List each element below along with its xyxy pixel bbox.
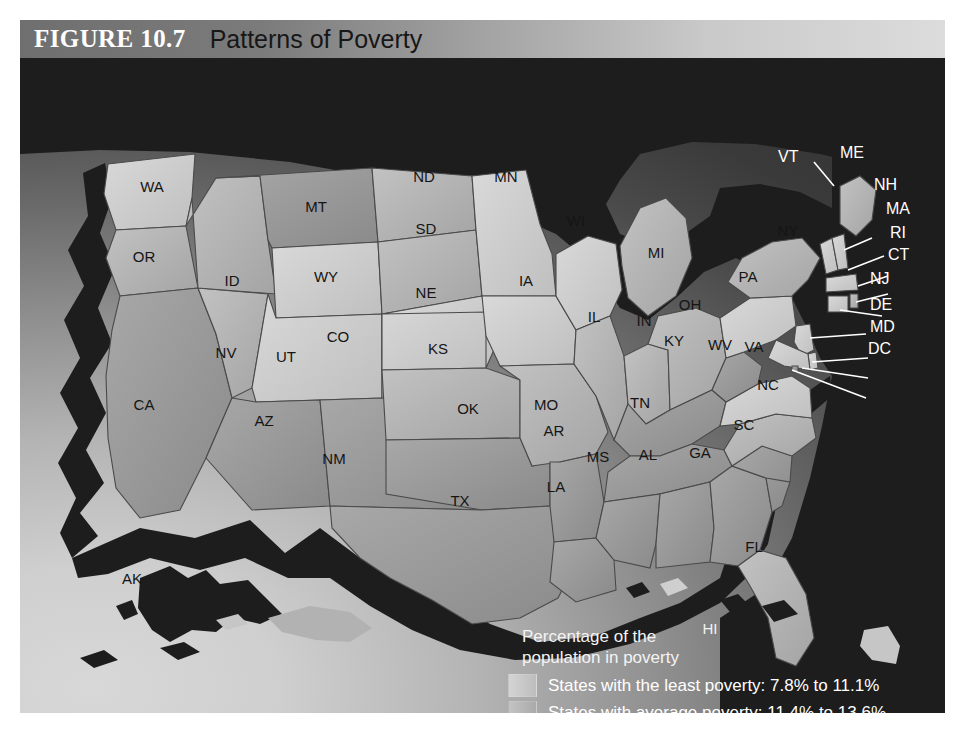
state-CT bbox=[828, 296, 848, 312]
svg-text:AK: AK bbox=[122, 570, 142, 587]
figure-title: Patterns of Poverty bbox=[210, 25, 423, 54]
us-choropleth-map: WA OR CA NV ID MT WY UT AZ CO NM ND SD N… bbox=[20, 58, 945, 713]
legend-label-least: States with the least poverty: 7.8% to 1… bbox=[548, 676, 879, 696]
legend-label-average: States with average poverty: 11.4% to 13… bbox=[548, 703, 886, 714]
inset-alaska bbox=[80, 566, 372, 668]
state-AL bbox=[656, 482, 714, 568]
legend-title: Percentage of the population in poverty bbox=[522, 626, 945, 668]
svg-text:VT: VT bbox=[778, 148, 799, 165]
state-AZ bbox=[206, 398, 330, 510]
state-KS bbox=[382, 368, 520, 440]
figure-container: FIGURE 10.7 Patterns of Poverty bbox=[0, 0, 960, 736]
state-WY bbox=[272, 242, 382, 318]
state-ND bbox=[372, 168, 476, 242]
legend-item-average: States with average poverty: 11.4% to 13… bbox=[508, 701, 945, 713]
state-OR bbox=[106, 226, 198, 296]
map-legend: Percentage of the population in poverty … bbox=[508, 626, 945, 713]
figure-number: FIGURE 10.7 bbox=[34, 25, 186, 53]
map-panel: WA OR CA NV ID MT WY UT AZ CO NM ND SD N… bbox=[20, 58, 945, 713]
legend-swatch-average bbox=[508, 701, 537, 713]
state-MI bbox=[620, 198, 692, 316]
legend-item-least: States with the least poverty: 7.8% to 1… bbox=[508, 674, 945, 697]
figure-title-bar: FIGURE 10.7 Patterns of Poverty bbox=[20, 20, 945, 58]
state-AR bbox=[550, 454, 604, 542]
legend-swatch-least bbox=[508, 674, 537, 697]
state-WA bbox=[104, 154, 195, 230]
